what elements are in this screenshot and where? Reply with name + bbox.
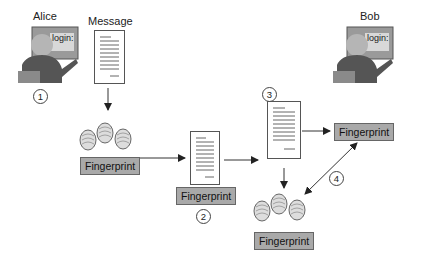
- step-2-badge: 2: [196, 209, 211, 224]
- step-1-badge: 1: [33, 89, 48, 104]
- alice-screen-text: login:: [52, 33, 74, 43]
- message-label: Message: [88, 15, 133, 27]
- message-document-icon: [94, 30, 125, 84]
- diagram-canvas: Alice login: 1 Message Fingerprint: [0, 0, 422, 263]
- alice-label: Alice: [33, 10, 57, 22]
- bob-label: Bob: [360, 10, 380, 22]
- received-document-icon: [267, 101, 301, 159]
- fingerprint-label-1: Fingerprint: [80, 157, 140, 175]
- fingerprint-icon: [252, 193, 308, 223]
- step-3-badge: 3: [262, 87, 277, 102]
- bob-screen-text: login:: [367, 33, 389, 43]
- fingerprint-label-3: Fingerprint: [334, 123, 394, 141]
- fingerprint-label-4: Fingerprint: [254, 232, 314, 250]
- step-4-badge: 4: [329, 171, 344, 186]
- signed-document-icon: [190, 131, 220, 185]
- fingerprint-label-2: Fingerprint: [176, 187, 236, 205]
- fingerprint-icon: [78, 122, 134, 152]
